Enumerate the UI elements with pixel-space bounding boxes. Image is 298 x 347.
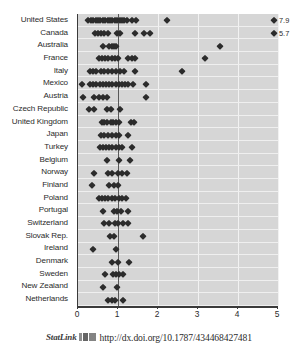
data-point [115, 258, 121, 264]
data-point [119, 144, 125, 150]
gridline-4 [238, 14, 239, 306]
x-tick-label-5: 5 [275, 309, 280, 319]
data-point [129, 144, 135, 150]
row-separator [78, 292, 278, 293]
category-label-czech-republic: Czech Republic [0, 103, 71, 116]
gridline-5 [278, 14, 279, 306]
data-point [124, 208, 130, 214]
row-separator [78, 178, 278, 179]
category-label-sweden: Sweden [0, 268, 71, 281]
x-axis-line [77, 306, 277, 308]
data-point [125, 220, 131, 226]
row-separator [78, 76, 278, 77]
data-point [126, 258, 132, 264]
data-point [104, 157, 110, 163]
category-label-new-zealand: New Zealand [0, 280, 71, 293]
data-point [124, 169, 130, 175]
row-separator [78, 140, 278, 141]
category-label-switzerland: Switzerland [0, 217, 71, 230]
data-point [91, 106, 97, 112]
category-label-norway: Norway [0, 166, 71, 179]
data-point [132, 30, 138, 36]
x-tick-label-0: 0 [75, 309, 80, 319]
doi-link[interactable]: http://dx.doi.org/10.1787/434468427481 [99, 332, 251, 343]
category-label-poland: Poland [0, 192, 71, 205]
data-point [147, 30, 153, 36]
data-point [115, 55, 121, 61]
data-point [118, 208, 124, 214]
category-label-canada: Canada [0, 27, 71, 40]
row-separator [78, 191, 278, 192]
data-point [115, 182, 121, 188]
data-point [217, 42, 223, 48]
barcode-icon [79, 333, 96, 341]
x-tick-label-4: 4 [235, 309, 240, 319]
data-point [111, 233, 117, 239]
data-point [143, 93, 149, 99]
row-separator [78, 153, 278, 154]
figure-container: United StatesCanadaAustraliaFranceItalyM… [0, 0, 298, 347]
category-label-austria: Austria [0, 90, 71, 103]
data-point [116, 157, 122, 163]
data-point [271, 30, 277, 36]
statlink-label: StatLink [46, 332, 76, 342]
data-point [179, 68, 185, 74]
data-point [104, 30, 110, 36]
value-label-united-states: 7.9 [279, 16, 289, 25]
data-point [100, 284, 106, 290]
row-separator [78, 216, 278, 217]
row-separator [78, 26, 278, 27]
category-label-ireland: Ireland [0, 242, 71, 255]
data-point [108, 106, 114, 112]
gridline-3 [198, 14, 199, 306]
category-label-mexico: Mexico [0, 77, 71, 90]
row-separator [78, 229, 278, 230]
data-point [120, 271, 126, 277]
data-point [125, 131, 131, 137]
row-separator [78, 115, 278, 116]
category-label-united-kingdom: United Kingdom [0, 116, 71, 129]
data-point [117, 30, 123, 36]
row-separator [78, 102, 278, 103]
data-point [80, 93, 86, 99]
category-label-japan: Japan [0, 128, 71, 141]
row-separator [78, 89, 278, 90]
row-separator [78, 267, 278, 268]
value-label-canada: 5.7 [279, 29, 289, 38]
data-point [89, 182, 95, 188]
data-point [79, 81, 85, 87]
row-separator [78, 254, 278, 255]
data-point [104, 93, 110, 99]
category-label-denmark: Denmark [0, 255, 71, 268]
category-label-netherlands: Netherlands [0, 293, 71, 306]
category-label-finland: Finland [0, 179, 71, 192]
statlink-footer: StatLink http://dx.doi.org/10.1787/43446… [0, 329, 298, 345]
data-point [133, 17, 139, 23]
row-separator [78, 127, 278, 128]
row-separator [78, 51, 278, 52]
data-point [132, 68, 138, 74]
x-tick-label-1: 1 [115, 309, 120, 319]
data-point [127, 157, 133, 163]
data-point [202, 55, 208, 61]
gridline-2 [158, 14, 159, 306]
data-point [140, 233, 146, 239]
row-separator [78, 242, 278, 243]
data-point [102, 271, 108, 277]
category-label-united-states: United States [0, 14, 71, 27]
row-separator [78, 165, 278, 166]
x-tick-label-2: 2 [155, 309, 160, 319]
data-point [120, 296, 126, 302]
category-axis-labels: United StatesCanadaAustraliaFranceItalyM… [0, 14, 71, 306]
data-point [123, 195, 129, 201]
data-point [164, 17, 170, 23]
category-label-turkey: Turkey [0, 141, 71, 154]
row-separator [78, 203, 278, 204]
category-label-france: France [0, 52, 71, 65]
data-point [120, 68, 126, 74]
data-point [90, 246, 96, 252]
row-separator [78, 64, 278, 65]
x-tick-label-3: 3 [195, 309, 200, 319]
data-point [114, 284, 120, 290]
row-separator [78, 280, 278, 281]
